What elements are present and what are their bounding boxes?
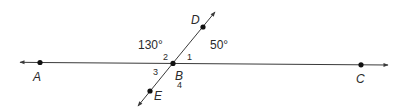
label-d: D: [191, 13, 200, 27]
angle-number-4: 4: [177, 80, 182, 90]
angle-number-2: 2: [163, 52, 168, 62]
point-e: [147, 88, 152, 93]
angle-measure-50: 50°: [210, 38, 228, 52]
line-ac: [20, 62, 388, 65]
label-c: C: [356, 72, 365, 86]
point-b: [170, 61, 175, 66]
point-d: [200, 24, 205, 29]
label-a: A: [32, 70, 41, 84]
label-e: E: [154, 89, 163, 103]
point-a: [37, 60, 42, 65]
angle-measure-130: 130°: [138, 38, 163, 52]
angle-number-3: 3: [153, 67, 158, 77]
geometry-diagram: A B C D E 130° 50° 1 2 3 4: [0, 0, 405, 111]
point-c: [358, 62, 363, 67]
angle-number-1: 1: [187, 52, 192, 62]
